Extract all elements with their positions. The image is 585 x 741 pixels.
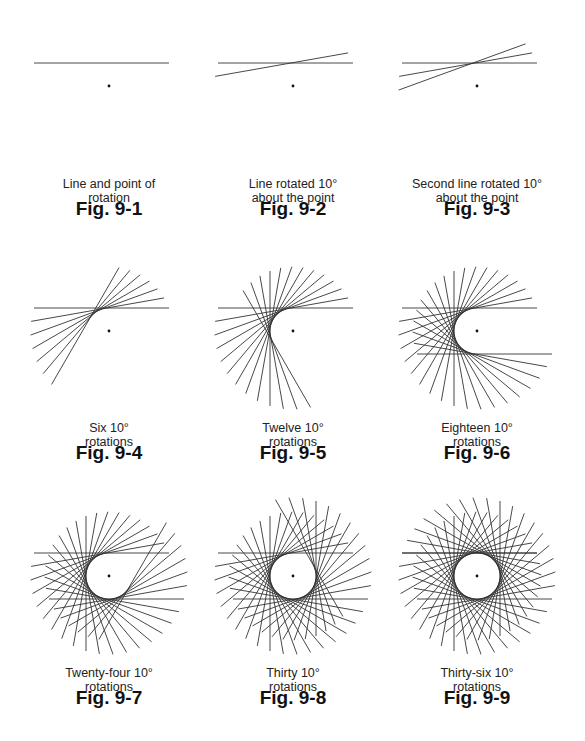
tangent-line	[215, 53, 348, 76]
rotation-point	[108, 85, 111, 88]
tangent-line	[257, 268, 280, 401]
tangent-line	[76, 521, 99, 654]
tangent-line	[422, 586, 555, 609]
fig-9-1-drawing	[34, 63, 169, 87]
tangent-line	[215, 298, 348, 321]
caption-line: Line rotated 10°	[198, 177, 388, 191]
tangent-line	[54, 586, 187, 609]
caption-line: Twenty-four 10°	[14, 666, 204, 680]
caption-line: Twelve 10°	[198, 421, 388, 435]
tangent-line	[217, 281, 334, 349]
fig-9-6-drawing	[399, 267, 552, 410]
rotation-point	[292, 330, 295, 333]
tangent-line	[430, 267, 476, 394]
caption-line: Thirty 10°	[198, 666, 388, 680]
tangent-line	[33, 526, 150, 594]
tangent-line	[413, 332, 540, 378]
fig-9-8-drawing	[215, 498, 372, 655]
tangent-line	[260, 521, 283, 654]
fig-9-2-label: Fig. 9-2	[198, 198, 388, 220]
tangent-line	[414, 529, 541, 575]
tangent-line	[246, 512, 292, 639]
fig-9-1-label: Fig. 9-1	[14, 198, 204, 220]
tangent-line	[37, 275, 140, 362]
rotation-point	[108, 575, 111, 578]
tangent-line	[444, 276, 467, 409]
tangent-line	[399, 289, 526, 335]
tangent-line	[236, 268, 303, 385]
tangent-line	[416, 310, 519, 397]
caption-line: Six 10°	[14, 421, 204, 435]
caption-line: Second line rotated 10°	[382, 177, 572, 191]
tangent-line	[401, 281, 518, 349]
tangent-line	[31, 534, 158, 580]
tangent-line	[399, 44, 526, 90]
tangent-line	[399, 298, 532, 321]
fig-9-9-drawing	[399, 498, 556, 655]
tangent-line	[31, 543, 164, 566]
tangent-line	[229, 577, 356, 623]
tangent-line	[45, 577, 172, 623]
tangent-line	[33, 281, 150, 349]
tangent-line	[62, 512, 108, 639]
rotation-point	[476, 330, 479, 333]
rotation-point	[476, 85, 479, 88]
fig-9-3-label: Fig. 9-3	[382, 198, 572, 220]
tangent-line	[260, 276, 283, 409]
tangent-line	[414, 321, 531, 389]
tangent-line	[31, 298, 164, 321]
tangent-line	[413, 577, 540, 623]
tangent-line	[421, 300, 508, 403]
tangent-line	[52, 268, 120, 385]
fig-9-9-label: Fig. 9-9	[382, 687, 572, 709]
tangent-line	[303, 498, 326, 631]
fig-9-5-label: Fig. 9-5	[198, 442, 388, 464]
tangent-line	[48, 555, 151, 642]
tangent-line	[478, 513, 524, 640]
tangent-line	[238, 586, 371, 609]
caption-line: Eighteen 10°	[382, 421, 572, 435]
fig-9-8-label: Fig. 9-8	[198, 687, 388, 709]
rotation-point	[292, 575, 295, 578]
tangent-line	[399, 53, 532, 76]
fig-9-6-label: Fig. 9-6	[382, 442, 572, 464]
tangent-line	[246, 267, 292, 394]
rotation-point	[292, 85, 295, 88]
fig-9-2-drawing	[215, 53, 353, 87]
tangent-line	[31, 289, 158, 335]
fig-9-7-label: Fig. 9-7	[14, 687, 204, 709]
tangent-line	[43, 270, 130, 373]
caption-line: Line and point of	[14, 177, 204, 191]
tangent-line	[215, 289, 342, 335]
fig-9-4-label: Fig. 9-4	[14, 442, 204, 464]
tangent-line	[294, 513, 340, 640]
tangent-line	[414, 343, 547, 366]
tangent-line	[227, 270, 314, 373]
caption-line: Thirty-six 10°	[382, 666, 572, 680]
fig-9-4-drawing	[31, 268, 169, 385]
fig-9-7-drawing	[31, 512, 188, 655]
rotation-point	[108, 330, 111, 333]
fig-9-3-drawing	[399, 44, 537, 90]
tangent-line	[487, 498, 510, 631]
figure-canvas	[0, 0, 585, 741]
fig-9-5-drawing	[215, 267, 353, 410]
rotation-point	[476, 575, 479, 578]
